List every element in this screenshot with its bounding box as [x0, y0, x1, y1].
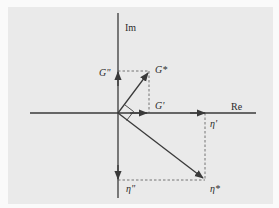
g-star-label: G*	[155, 64, 167, 75]
real-axis-label: Re	[231, 101, 243, 112]
eta-star-label: η*	[210, 183, 220, 194]
eta-star-vector	[118, 113, 203, 178]
g-prime-label: G'	[155, 100, 165, 111]
imag-axis-label: Im	[125, 22, 136, 33]
projection-lines	[118, 71, 205, 180]
eta-prime-label: η'	[210, 118, 218, 129]
g-star-vector	[118, 73, 148, 113]
phasor-diagram: Im Re G* G' G" η' η" η*	[0, 0, 279, 208]
eta-double-prime-label: η"	[126, 183, 136, 194]
g-double-prime-label: G"	[99, 67, 111, 78]
